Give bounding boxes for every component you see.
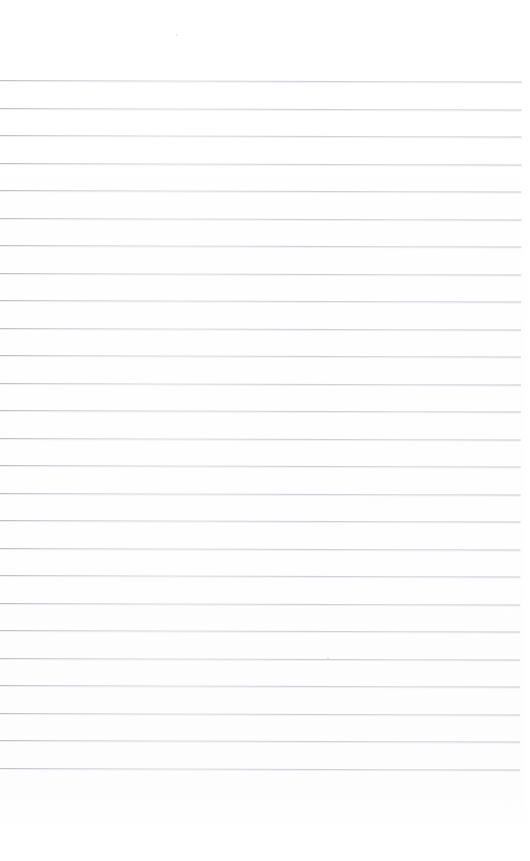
ruled-lines-layer bbox=[0, 0, 530, 861]
ruled-line bbox=[0, 712, 520, 714]
ruled-line bbox=[0, 465, 521, 467]
paper-surface bbox=[0, 0, 530, 861]
scanned-page: A scanned blank sheet of ruled notebook … bbox=[0, 0, 530, 861]
ruled-line bbox=[0, 575, 520, 577]
ruled-line bbox=[0, 410, 521, 412]
ruled-line bbox=[0, 245, 521, 247]
ruled-line bbox=[0, 272, 521, 274]
ruled-line bbox=[0, 547, 520, 549]
ruled-line bbox=[0, 740, 520, 742]
ruled-line bbox=[0, 327, 521, 329]
ruled-line bbox=[0, 437, 521, 439]
ruled-line bbox=[0, 520, 521, 522]
ruled-line bbox=[0, 657, 520, 659]
ruled-line bbox=[0, 162, 522, 164]
ruled-line bbox=[0, 602, 520, 604]
ruled-line bbox=[0, 217, 521, 219]
ruled-line bbox=[0, 107, 522, 109]
ruled-line bbox=[0, 80, 522, 82]
speck-upper bbox=[176, 34, 178, 36]
page-description: A scanned blank sheet of ruled notebook … bbox=[0, 0, 1, 1]
ruled-line bbox=[0, 630, 520, 632]
speck-lower bbox=[327, 657, 329, 659]
ruled-line bbox=[0, 767, 520, 769]
right-edge-fade bbox=[521, 0, 530, 861]
bottom-margin-fade bbox=[0, 791, 530, 861]
ruled-line bbox=[0, 492, 521, 494]
ruled-line bbox=[0, 685, 520, 687]
ruled-line bbox=[0, 300, 521, 302]
ruled-line bbox=[0, 190, 521, 192]
ruled-line bbox=[0, 355, 521, 357]
ruled-line bbox=[0, 382, 521, 384]
ruled-line bbox=[0, 135, 522, 137]
